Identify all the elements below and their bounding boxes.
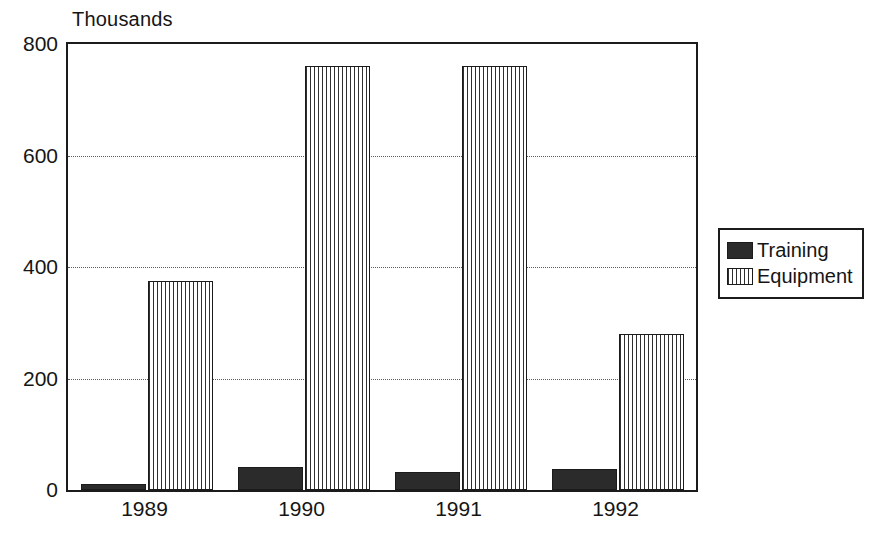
- chart-legend: Training Equipment: [718, 228, 864, 299]
- legend-item-training: Training: [727, 237, 853, 263]
- legend-item-equipment: Equipment: [727, 263, 853, 289]
- bars-layer: [68, 44, 696, 490]
- y-tick-800: 800: [23, 32, 58, 56]
- plot-area: [66, 42, 698, 492]
- x-tick-1990: 1990: [278, 497, 325, 521]
- y-tick-400: 400: [23, 255, 58, 279]
- bar-equipment-1992: [619, 334, 684, 490]
- x-tick-1989: 1989: [121, 497, 168, 521]
- x-tick-1992: 1992: [592, 497, 639, 521]
- bar-training-1991: [395, 472, 460, 490]
- legend-swatch-equipment-icon: [727, 268, 753, 285]
- bar-training-1992: [552, 469, 617, 490]
- y-tick-600: 600: [23, 144, 58, 168]
- legend-swatch-training-icon: [727, 242, 753, 259]
- y-axis-unit-title: Thousands: [72, 8, 173, 31]
- bar-equipment-1989: [148, 281, 213, 490]
- bar-equipment-1991: [462, 66, 527, 490]
- bar-training-1990: [238, 467, 303, 490]
- legend-label-training: Training: [757, 240, 829, 260]
- legend-label-equipment: Equipment: [757, 266, 853, 286]
- y-tick-0: 0: [46, 478, 58, 502]
- bar-chart: Thousands 0200400600800 1989199019911992…: [0, 0, 890, 543]
- bar-training-1989: [81, 484, 146, 490]
- x-axis-tick-labels: 1989199019911992: [66, 497, 698, 531]
- x-tick-1991: 1991: [435, 497, 482, 521]
- y-axis-tick-labels: 0200400600800: [0, 42, 58, 492]
- y-tick-200: 200: [23, 367, 58, 391]
- bar-equipment-1990: [305, 66, 370, 490]
